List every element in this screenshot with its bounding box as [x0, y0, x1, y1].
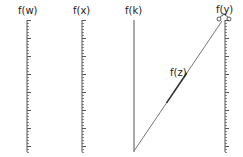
nomogram-canvas — [0, 0, 243, 157]
connector-label-z: f(z) — [170, 68, 187, 78]
axis-x — [82, 20, 86, 153]
axis-label-x: f(x) — [73, 6, 90, 16]
axis-label-y: f(y) — [216, 5, 233, 15]
axis-w — [27, 20, 31, 153]
connector-layer — [134, 21, 222, 151]
axis-label-w: f(w) — [18, 6, 38, 16]
axes-layer — [27, 20, 229, 153]
axis-label-k: f(k) — [125, 6, 142, 16]
axis-y — [225, 20, 229, 153]
